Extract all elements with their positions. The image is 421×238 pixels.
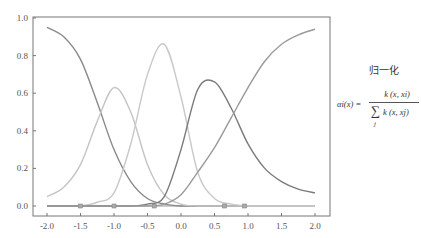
x-tick-label: 0.5 bbox=[209, 221, 221, 231]
formula-numerator: k (x, xi) bbox=[375, 89, 419, 99]
formula-denominator: k (x, xj) bbox=[383, 107, 409, 117]
kernel-curve bbox=[47, 44, 315, 206]
x-tick-label: -1.5 bbox=[73, 221, 88, 231]
x-tick-label: -2.0 bbox=[40, 221, 55, 231]
x-tick-label: 1.0 bbox=[242, 221, 254, 231]
data-point-marker bbox=[223, 204, 227, 208]
x-tick-label: 2.0 bbox=[309, 221, 321, 231]
x-tick-label: -1.0 bbox=[107, 221, 122, 231]
y-tick-label: 0.6 bbox=[17, 88, 29, 98]
y-tick-label: 0.0 bbox=[17, 201, 29, 211]
y-tick-label: 0.2 bbox=[17, 163, 28, 173]
data-point-marker bbox=[112, 204, 116, 208]
kernel-curve bbox=[47, 27, 315, 206]
kernel-curve bbox=[47, 87, 315, 206]
x-tick-label: -0.5 bbox=[140, 221, 155, 231]
x-tick-label: 1.5 bbox=[276, 221, 288, 231]
y-tick-label: 0.8 bbox=[17, 51, 29, 61]
plot-frame bbox=[33, 17, 330, 216]
normalization-title: 归一化 bbox=[369, 62, 399, 77]
y-tick-label: 1.0 bbox=[17, 13, 29, 23]
formula-lhs: αi(x) = bbox=[337, 99, 361, 109]
x-tick-label: 0.0 bbox=[175, 221, 187, 231]
sum-index: j bbox=[374, 120, 376, 128]
normalization-formula: αi(x) = k (x, xi) ∑ k (x, xj) j bbox=[337, 86, 421, 136]
sum-symbol: ∑ bbox=[371, 103, 380, 119]
y-tick-label: 0.4 bbox=[17, 126, 29, 136]
curves bbox=[47, 27, 315, 206]
kernel-curve bbox=[47, 29, 315, 206]
data-point-marker bbox=[152, 204, 156, 208]
data-point-marker bbox=[79, 204, 83, 208]
data-point-marker bbox=[243, 204, 247, 208]
